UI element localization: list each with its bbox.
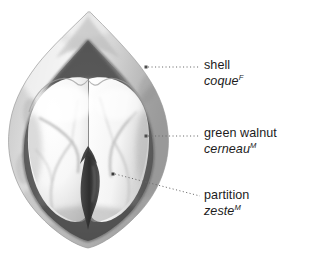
label-green-walnut-gender: M: [250, 141, 256, 150]
label-partition-fr: zesteM: [204, 204, 249, 218]
label-green-walnut-en: green walnut: [204, 127, 277, 140]
label-partition-fr-term: zeste: [204, 204, 234, 218]
label-shell: shell coqueF: [204, 59, 243, 88]
label-partition-gender: M: [234, 203, 240, 212]
leader-dot-partition: [112, 173, 115, 176]
label-green-walnut: green walnut cerneauM: [204, 127, 277, 156]
label-green-walnut-fr: cerneauM: [204, 142, 277, 156]
kernel-highlight: [34, 86, 94, 122]
leader-line-shell: [145, 66, 201, 69]
leader-dot-shell: [145, 66, 148, 69]
label-partition: partition zesteM: [204, 189, 249, 218]
label-shell-fr-term: coque: [204, 74, 239, 88]
label-green-walnut-fr-term: cerneau: [204, 142, 250, 156]
leader-dot-kernel: [145, 135, 148, 138]
label-shell-gender: F: [239, 73, 244, 82]
label-partition-en: partition: [204, 189, 249, 202]
label-shell-en: shell: [204, 59, 243, 72]
label-shell-fr: coqueF: [204, 74, 243, 88]
